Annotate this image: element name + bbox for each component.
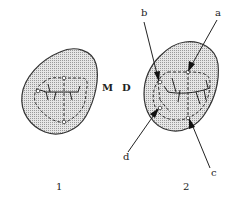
pointer-label-b: b	[141, 8, 147, 18]
tooth-2	[144, 42, 218, 131]
pointer-d	[128, 108, 159, 152]
pointer-label-a: a	[215, 8, 221, 18]
label-d: D	[122, 83, 131, 93]
caption-2: 2	[183, 182, 189, 192]
label-m: M	[102, 83, 113, 93]
pointer-label-c: c	[211, 168, 217, 178]
diagram-canvas	[0, 0, 242, 200]
pointer-label-d: d	[123, 152, 129, 162]
tooth-1	[22, 49, 98, 134]
pointer-c	[189, 118, 210, 168]
caption-1: 1	[56, 182, 62, 192]
